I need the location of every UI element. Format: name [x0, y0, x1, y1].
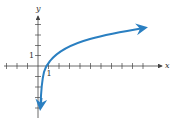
- y-tick-label: 1: [29, 51, 34, 60]
- x-axis-label: x: [165, 61, 170, 70]
- curve-down-arrow-icon: [41, 98, 42, 107]
- y-axis-label: y: [35, 4, 41, 13]
- y-axis: y 1: [29, 4, 41, 118]
- log-graph: x 1 y 1: [0, 0, 170, 118]
- x-axis: x 1: [4, 61, 170, 78]
- x-tick-label: 1: [47, 69, 52, 78]
- log-curve: [41, 28, 145, 106]
